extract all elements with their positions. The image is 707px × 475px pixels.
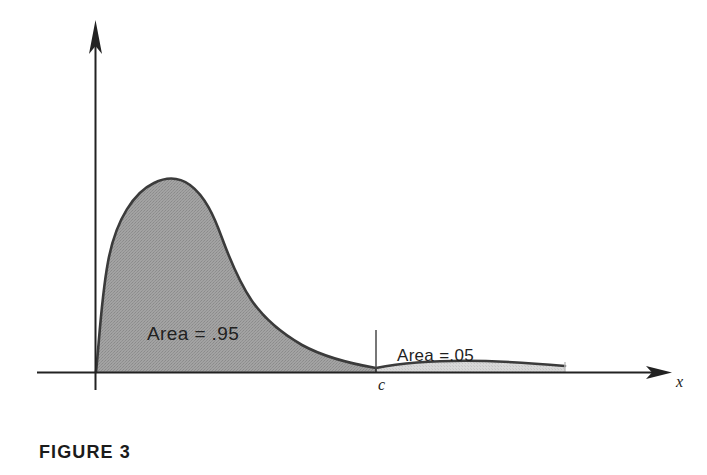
x-axis-label: x: [676, 374, 683, 390]
figure-container: Area = .95 Area =.05 c x FIGURE 3: [0, 0, 707, 475]
distribution-plot: [0, 0, 707, 475]
figure-caption: FIGURE 3: [39, 443, 131, 461]
area-label-major: Area = .95: [147, 324, 239, 343]
area-label-minor: Area =.05: [397, 347, 474, 364]
threshold-tick-label-c: c: [378, 377, 385, 393]
